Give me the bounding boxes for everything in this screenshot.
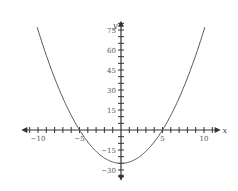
y-axis-label: y <box>112 21 118 30</box>
y-tick-label: 45 <box>107 67 116 75</box>
x-axis-left-arrow-icon <box>21 127 27 133</box>
x-axis-label: x <box>223 126 228 135</box>
y-tick-label: 60 <box>107 47 116 55</box>
y-tick-label: −30 <box>101 167 116 175</box>
parabola-chart: −10−5510−30−151530456075 x y <box>0 0 238 191</box>
y-tick-label: −15 <box>101 147 116 155</box>
y-tick-label: 15 <box>107 107 116 115</box>
x-axis-right-arrow-icon <box>215 127 221 133</box>
x-tick-label: 5 <box>160 135 164 143</box>
y-tick-label: 30 <box>107 87 116 95</box>
x-tick-label: −10 <box>31 135 46 143</box>
y-axis-down-arrow-icon <box>118 175 124 181</box>
x-tick-label: 10 <box>200 135 209 143</box>
tick-labels: −10−5510−30−151530456075 <box>31 27 209 175</box>
